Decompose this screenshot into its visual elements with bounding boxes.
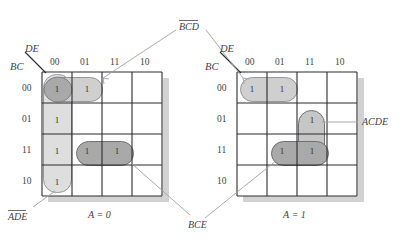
map-a0-one-r11-c00: 1 <box>51 147 63 156</box>
map-a0-one-r10-c00: 1 <box>51 178 63 187</box>
annotation-bcd-text: BCD <box>179 22 199 32</box>
map-a0-caption: A = 0 <box>88 209 111 220</box>
map-a0-one-r00-c01: 1 <box>81 85 93 94</box>
map-a0-shadow-right <box>163 78 169 200</box>
map-a0-one-r00-c00: 1 <box>51 85 63 94</box>
map-a0-shadow-bottom <box>48 196 169 202</box>
map-a1-one-r00-c00: 1 <box>246 85 258 94</box>
kmap-figure: DE BC 00 01 11 10 00 01 11 10 1 1 1 1 1 … <box>0 0 407 244</box>
leader-bcd-to-a0 <box>103 30 176 78</box>
map-a0-col-axis-label: DE <box>25 44 39 55</box>
map-a0-col-header-2: 11 <box>110 58 119 68</box>
map-a1-one-r00-c01: 1 <box>276 85 288 94</box>
map-a1-col-axis-label: DE <box>220 44 234 55</box>
leader-arrowheads <box>103 78 249 84</box>
map-a1-caption: A = 1 <box>283 209 306 220</box>
map-a1-col-header-0: 00 <box>245 58 255 68</box>
map-a1-row-header-0: 00 <box>217 84 227 94</box>
map-a1-one-r11-c01: 1 <box>276 147 288 156</box>
annotation-acde: ACDE <box>362 117 388 127</box>
map-a0-row-axis-label: BC <box>10 62 23 73</box>
map-a0-col-header-0: 00 <box>50 58 60 68</box>
map-a0-col-header-1: 01 <box>80 58 90 68</box>
map-a0-col-header-3: 10 <box>140 58 150 68</box>
annotation-bce-text: BCE <box>188 219 207 230</box>
map-a0-row-header-2: 11 <box>22 146 31 156</box>
map-a0-one-r11-c01: 1 <box>81 147 93 156</box>
map-a0-one-r01-c00: 1 <box>51 116 63 125</box>
leader-bce-to-a1 <box>205 160 277 218</box>
annotation-bcd: BCD <box>179 22 199 32</box>
map-a0-one-r11-c11: 1 <box>111 147 123 156</box>
map-a1-row-header-3: 10 <box>217 177 227 187</box>
map-a1-row-header-2: 11 <box>217 146 226 156</box>
map-a0-axis-diagonal <box>25 52 46 73</box>
map-a1-shadow-right <box>358 78 364 200</box>
leader-bce-to-a0 <box>131 163 190 215</box>
map-a1-col-header-1: 01 <box>275 58 285 68</box>
map-a1-one-r01-c11: 1 <box>306 116 318 125</box>
map-a0-row-header-1: 01 <box>22 115 32 125</box>
map-a0-row-header-0: 00 <box>22 84 32 94</box>
map-a1-one-r11-c11: 1 <box>306 147 318 156</box>
map-a0-row-header-3: 10 <box>22 177 32 187</box>
map-a1-col-header-2: 11 <box>305 58 314 68</box>
map-a1-col-header-3: 10 <box>335 58 345 68</box>
map-a1-row-header-1: 01 <box>217 115 227 125</box>
annotation-bce: BCE <box>188 220 207 230</box>
map-a1-row-axis-label: BC <box>205 62 218 73</box>
map-a1-shadow-bottom <box>243 196 364 202</box>
annotation-ade: ADE <box>8 212 27 222</box>
annotation-acde-text: ACDE <box>362 116 388 127</box>
annotation-ade-text: ADE <box>8 212 27 222</box>
